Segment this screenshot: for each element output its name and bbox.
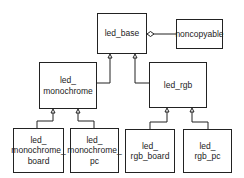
class-led-rgb-board[interactable]: led_ rgb_board [125,129,175,173]
class-label: led_ rgb_board [131,141,170,162]
class-label: led_ monochrome [43,75,93,96]
inheritance-arrow-icon [108,54,112,58]
class-noncopyable[interactable]: noncopyable [176,19,223,49]
edge-rgb-pc-to-rgb [192,112,208,129]
inheritance-arrow-icon [190,108,194,112]
class-label: led_base [105,28,140,39]
edge-rgb-to-base [135,58,149,83]
class-label: led_ monochrome_ pc [67,135,121,167]
class-led-monochrome[interactable]: led_ monochrome [39,62,97,109]
inheritance-arrow-icon [133,54,137,58]
class-led-rgb[interactable]: led_rgb [149,62,207,108]
aggregation-diamond-icon [147,32,154,37]
class-led-base[interactable]: led_base [97,13,147,54]
edge-rgb-board-to-rgb [150,112,167,129]
class-led-rgb-pc[interactable]: led_ rgb_pc [183,129,232,173]
class-led-monochrome-pc[interactable]: led_ monochrome_ pc [70,128,119,173]
edge-monochrome-pc-to-monochrome [78,113,94,128]
class-led-monochrome-board[interactable]: led_ monochrome_ board [13,128,64,173]
edge-monochrome-board-to-monochrome [37,113,53,128]
edge-monochrome-to-base [96,58,110,83]
class-label: noncopyable [175,29,223,40]
class-label: led_ monochrome_ board [11,135,65,167]
inheritance-arrow-icon [51,109,55,113]
class-label: led_rgb [164,80,192,91]
inheritance-arrow-icon [165,108,169,112]
class-label: led_ rgb_pc [195,141,221,162]
inheritance-arrow-icon [76,109,80,113]
